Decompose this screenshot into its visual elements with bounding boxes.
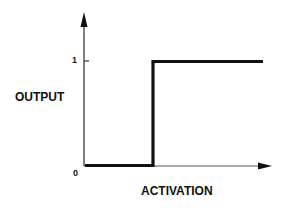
step-function-diagram: OUTPUT ACTIVATION 1 0 [0,0,282,210]
x-axis-label: ACTIVATION [141,184,213,198]
plot-area [0,0,282,210]
x-axis-arrowhead-icon [258,163,272,170]
y-axis-label: OUTPUT [15,90,64,104]
y-tick-label-one: 1 [72,55,77,65]
y-axis-arrowhead-icon [81,12,88,27]
step-curve [85,62,263,166]
y-tick-label-zero: 0 [73,168,78,178]
